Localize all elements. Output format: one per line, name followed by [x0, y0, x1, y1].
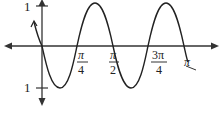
- x-label-pi4-den: 4: [78, 63, 84, 77]
- x-label-pi2-num: π: [110, 48, 117, 62]
- x-label-3pi4-num: 3π: [152, 48, 164, 62]
- sine-graph: 1 1 π 4 π 2 3π 4 π: [0, 0, 221, 123]
- y-label-top: 1: [24, 0, 31, 14]
- x-label-pi2-den: 2: [110, 63, 116, 77]
- y-axis-bottom-arrow-icon: [39, 98, 46, 106]
- y-axis-top-arrow-icon: [39, 0, 46, 6]
- x-axis-right-arrow-icon: [211, 43, 219, 50]
- x-label-pi4-num: π: [78, 48, 85, 62]
- x-label-3pi4-den: 4: [156, 63, 162, 77]
- x-axis-left-arrow-icon: [4, 43, 12, 50]
- y-label-bottom: 1: [24, 80, 31, 95]
